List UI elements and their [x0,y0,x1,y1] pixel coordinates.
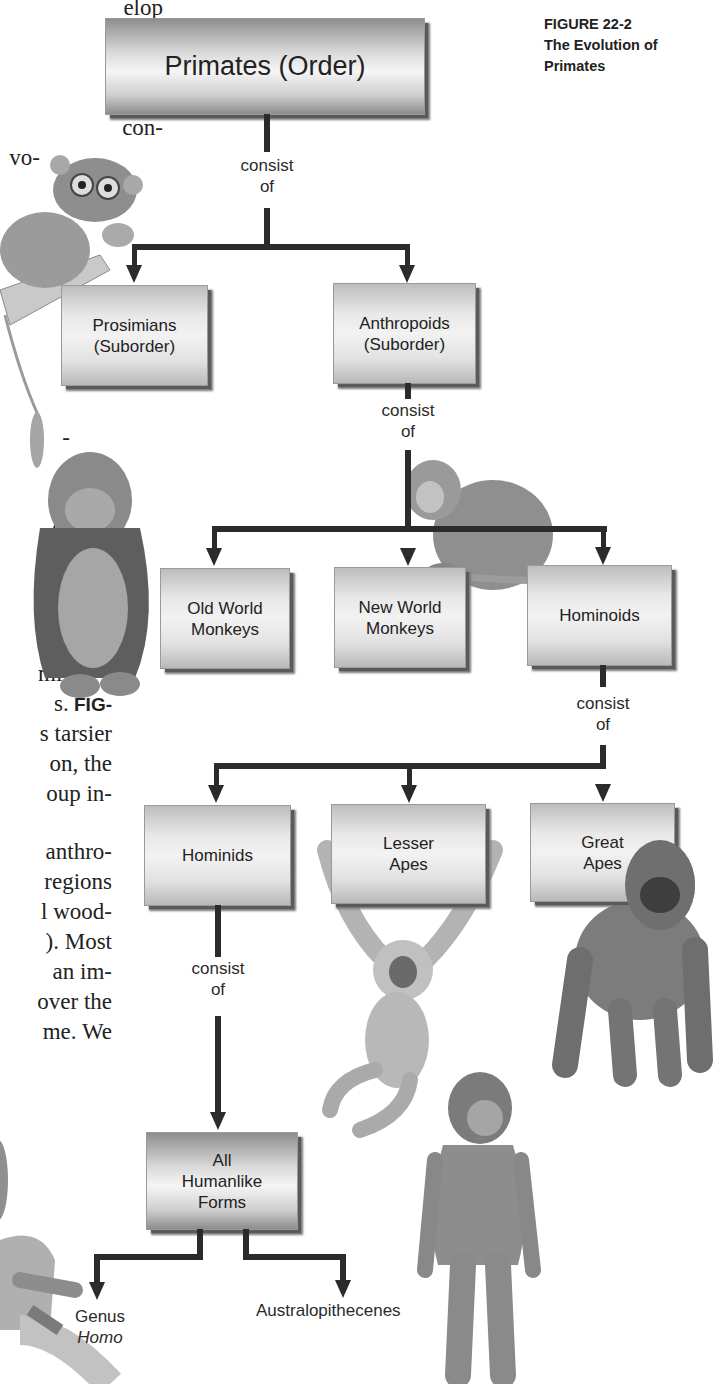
leaf-australopithecenes: Australopithecenes [256,1300,401,1321]
old-world-monkey-illustration [25,448,165,700]
connector-line [94,1254,203,1260]
node-new-world-monkeys: New WorldMonkeys [334,567,466,668]
connector-line [405,383,411,399]
arrow-down-icon [89,1282,105,1300]
body-text-line: on, the [49,750,112,778]
consist-of-label: consistof [368,400,448,442]
connector-line [215,1016,221,1112]
arrow-down-icon [335,1280,351,1298]
connector-line [94,1254,100,1284]
connector-line [600,665,606,687]
connector-line [132,244,410,250]
node-old-world-monkeys: Old WorldMonkeys [160,568,290,669]
body-text-line: ). Most [46,928,112,956]
connector-line [132,244,137,266]
connector-line [212,526,607,532]
arrow-down-icon [399,265,415,283]
figure-number: FIGURE 22-2 [544,14,718,35]
body-text-line: regions [44,868,112,896]
australopithecine-illustration [413,1070,541,1384]
figure-title: The Evolution of Primates [544,35,718,77]
arrow-down-icon [595,784,611,802]
connector-line [405,450,411,530]
node-hominids: Hominids [144,805,291,906]
arrow-down-icon [401,785,417,803]
body-text-line: me. We [43,1018,112,1046]
body-text-line: anthro- [46,838,112,866]
arrow-down-icon [210,1112,226,1130]
consist-of-label: consistof [227,155,307,197]
gorilla-head-overlay [630,840,700,900]
consist-of-label: consistof [178,958,258,1000]
connector-line [215,905,221,957]
arrow-down-icon [206,548,222,566]
body-text-line: an im- [53,958,112,986]
figure-caption: FIGURE 22-2 The Evolution of Primates [544,14,718,77]
leaf-genus-homo: Genus Homo [70,1306,130,1348]
body-text-line: con- [122,114,163,142]
node-primates: Primates (Order) [105,18,425,115]
node-anthropoids: Anthropoids(Suborder) [333,283,476,384]
connector-line [264,208,270,248]
node-hominoids: Hominoids [527,565,672,666]
arrow-down-icon [208,785,224,803]
body-text-line: oup in- [46,780,112,808]
connector-line [214,763,219,785]
body-text-line: l wood- [41,898,112,926]
connector-line [407,763,412,785]
node-lesser-apes: LesserApes [331,804,486,904]
connector-line [601,526,606,548]
connector-line [212,526,217,548]
connector-line [243,1254,346,1260]
connector-line [264,114,270,152]
arrow-down-icon [595,547,611,565]
connector-line [405,244,410,266]
node-primates-label: Primates (Order) [164,56,365,77]
node-prosimians: Prosimians(Suborder) [61,285,208,386]
connector-line [340,1254,346,1282]
body-text-line: s tarsier [40,720,112,748]
arrow-down-icon [400,548,416,566]
arrow-down-icon [126,265,142,283]
node-all-humanlike-forms: AllHumanlikeForms [146,1132,298,1230]
body-text-line: over the [37,988,112,1016]
consist-of-label: consistof [563,693,643,735]
